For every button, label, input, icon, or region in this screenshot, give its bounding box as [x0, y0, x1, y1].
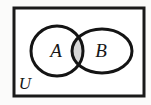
universe-label: U: [19, 74, 33, 93]
venn-diagram-figure: A B U: [0, 0, 151, 105]
set-b-label: B: [95, 40, 107, 61]
set-a-label: A: [48, 40, 62, 61]
venn-diagram-canvas: A B U: [0, 0, 151, 105]
